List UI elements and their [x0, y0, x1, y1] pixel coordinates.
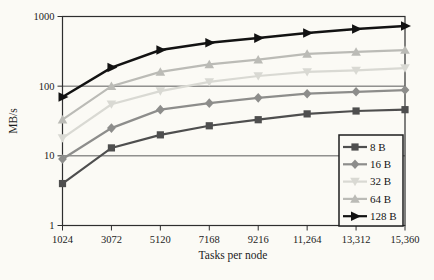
x-tick-label: 1024 [52, 234, 74, 245]
x-tick-label: 5120 [150, 234, 171, 245]
diamond-marker-icon [254, 93, 263, 103]
line-chart: MB/s Tasks per node 11010010001024307251… [0, 0, 434, 280]
legend-label: 8 B [370, 141, 386, 153]
y-tick-label: 100 [39, 81, 55, 92]
square-marker-icon [108, 144, 115, 151]
square-marker-icon [304, 110, 311, 117]
diamond-marker-icon [303, 89, 312, 99]
square-marker-icon [401, 106, 408, 113]
legend-label: 128 B [370, 210, 397, 222]
x-tick-label: 13,312 [342, 234, 371, 245]
triangle-right-marker-icon [352, 24, 362, 34]
legend-item-128-b: 128 B [343, 210, 397, 222]
y-axis-title: MB/s [7, 108, 19, 134]
triangle-right-marker-icon [401, 21, 411, 31]
diamond-marker-icon [401, 85, 410, 95]
x-tick-label: 9216 [248, 234, 269, 245]
diamond-marker-icon [156, 105, 165, 115]
x-axis-title: Tasks per node [199, 249, 268, 262]
legend-label: 64 B [370, 193, 391, 205]
y-tick-label: 10 [44, 150, 55, 161]
square-marker-icon [352, 107, 359, 114]
triangle-right-marker-icon [205, 38, 215, 48]
diamond-marker-icon [107, 123, 116, 133]
legend-label: 32 B [370, 175, 391, 187]
triangle-right-marker-icon [156, 45, 166, 55]
square-marker-icon [351, 143, 358, 150]
triangle-right-marker-icon [107, 63, 117, 73]
legend-label: 16 B [370, 158, 391, 170]
x-tick-label: 3072 [101, 234, 122, 245]
diamond-marker-icon [352, 87, 361, 97]
triangle-right-marker-icon [254, 33, 264, 43]
x-tick-label: 11,264 [293, 234, 322, 245]
square-marker-icon [255, 116, 262, 123]
square-marker-icon [157, 131, 164, 138]
y-tick-label: 1 [49, 220, 54, 231]
triangle-right-marker-icon [303, 28, 313, 38]
throughput-chart-figure: MB/s Tasks per node 11010010001024307251… [0, 0, 434, 280]
legend: 8 B16 B32 B64 B128 B [339, 135, 403, 226]
square-marker-icon [59, 180, 66, 187]
y-tick-label: 1000 [34, 11, 55, 22]
diamond-marker-icon [205, 98, 214, 108]
triangle-down-marker-icon [58, 134, 68, 142]
x-tick-label: 7168 [199, 234, 220, 245]
square-marker-icon [206, 122, 213, 129]
x-tick-label: 15,360 [391, 234, 420, 245]
